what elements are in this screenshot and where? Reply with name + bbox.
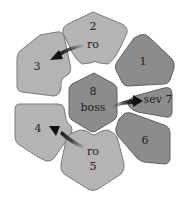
tile-1-number: 1 [140, 55, 147, 68]
tile-5-number: 5 [90, 160, 97, 173]
tile-8-number: 8 [90, 85, 97, 98]
tile-8-sublabel: boss [81, 101, 106, 114]
tile-7-label: sev 7 [144, 93, 173, 106]
tile-6[interactable]: 6 [116, 113, 170, 164]
tile-4-number: 4 [35, 122, 42, 135]
tile-3-number: 3 [34, 60, 41, 73]
tile-2-number: 2 [90, 20, 97, 33]
tile-2-sublabel: ro [87, 38, 99, 51]
tile-6-number: 6 [142, 134, 149, 147]
tile-5-sublabel: ro [87, 145, 99, 158]
tile-8[interactable]: 8 boss [69, 73, 117, 132]
tile-2[interactable]: 2 ro [63, 12, 127, 64]
tile-3[interactable]: 3 [17, 32, 71, 96]
tile-1[interactable]: 1 [115, 34, 174, 86]
tile-diagram: 2 ro 3 1 8 boss sev 7 4 6 ro 5 [0, 0, 186, 200]
